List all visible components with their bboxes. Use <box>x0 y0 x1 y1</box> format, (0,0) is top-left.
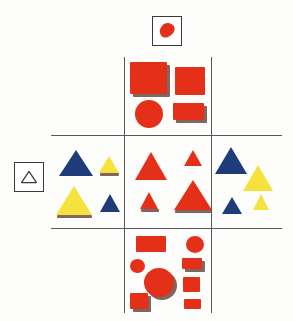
red-square-small[interactable] <box>183 277 200 292</box>
cell-bottom-center <box>0 0 293 321</box>
red-rectangle-wide[interactable] <box>136 236 166 252</box>
red-circle-large[interactable] <box>144 268 174 297</box>
red-circle-small-top[interactable] <box>186 236 204 253</box>
red-rectangle-small[interactable] <box>182 258 202 269</box>
red-rectangle-bottom[interactable] <box>184 299 201 309</box>
diagram-canvas <box>0 0 293 321</box>
red-circle-tiny[interactable] <box>130 259 145 273</box>
red-square-bottom[interactable] <box>130 293 148 309</box>
